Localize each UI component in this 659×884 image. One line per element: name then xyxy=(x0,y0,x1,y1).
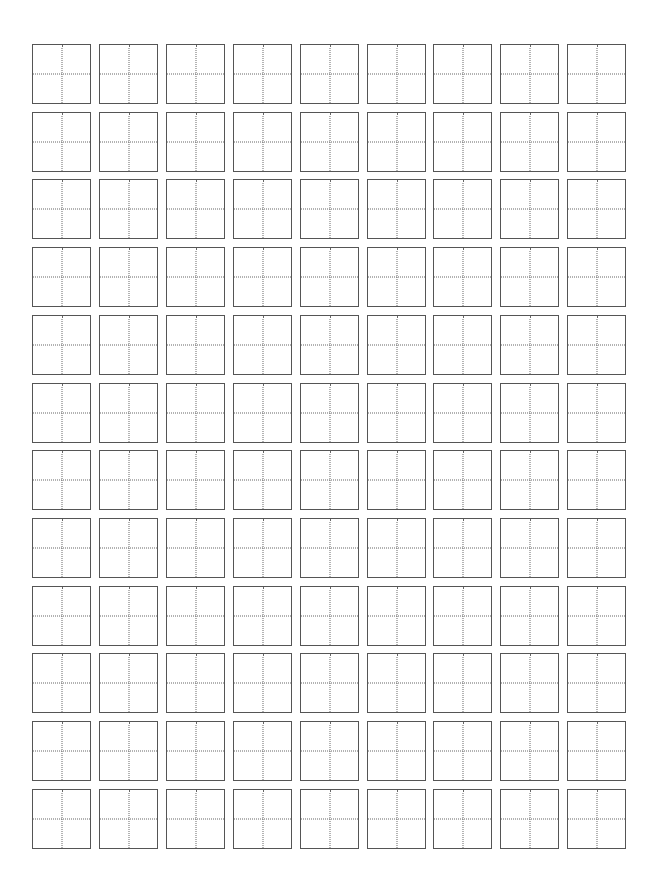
grid-cell xyxy=(433,586,492,646)
horizontal-guide-line xyxy=(234,819,291,820)
grid-cell xyxy=(166,247,225,307)
grid-cell xyxy=(367,179,426,239)
horizontal-guide-line xyxy=(568,277,625,278)
horizontal-guide-line xyxy=(501,548,558,549)
grid-cell xyxy=(433,383,492,443)
grid-cell xyxy=(433,721,492,781)
horizontal-guide-line xyxy=(568,209,625,210)
horizontal-guide-line xyxy=(301,345,358,346)
grid-cell xyxy=(567,44,626,104)
horizontal-guide-line xyxy=(434,751,491,752)
grid-cell xyxy=(367,450,426,510)
grid-cell xyxy=(433,112,492,172)
grid-cell xyxy=(500,653,559,713)
horizontal-guide-line xyxy=(100,209,157,210)
grid-cell xyxy=(32,653,91,713)
horizontal-guide-line xyxy=(33,480,90,481)
grid-cell xyxy=(300,247,359,307)
horizontal-guide-line xyxy=(301,74,358,75)
grid-cell xyxy=(500,721,559,781)
grid-cell xyxy=(32,315,91,375)
grid-cell xyxy=(500,112,559,172)
grid-cell xyxy=(233,179,292,239)
horizontal-guide-line xyxy=(434,277,491,278)
grid-cell xyxy=(433,247,492,307)
grid-cell xyxy=(567,315,626,375)
horizontal-guide-line xyxy=(301,683,358,684)
horizontal-guide-line xyxy=(434,413,491,414)
grid-cell xyxy=(32,789,91,849)
grid-cell xyxy=(99,789,158,849)
horizontal-guide-line xyxy=(368,548,425,549)
grid-cell xyxy=(166,112,225,172)
grid-cell xyxy=(99,44,158,104)
horizontal-guide-line xyxy=(234,683,291,684)
grid-cell xyxy=(300,789,359,849)
grid-cell xyxy=(367,315,426,375)
horizontal-guide-line xyxy=(501,413,558,414)
grid-cell xyxy=(500,247,559,307)
grid-cell xyxy=(166,518,225,578)
horizontal-guide-line xyxy=(568,819,625,820)
grid-cell xyxy=(233,789,292,849)
horizontal-guide-line xyxy=(234,413,291,414)
grid-cell xyxy=(500,450,559,510)
horizontal-guide-line xyxy=(568,345,625,346)
grid-cell xyxy=(233,247,292,307)
grid-cell xyxy=(567,247,626,307)
horizontal-guide-line xyxy=(301,480,358,481)
grid-cell xyxy=(32,44,91,104)
grid-cell xyxy=(567,721,626,781)
horizontal-guide-line xyxy=(434,819,491,820)
horizontal-guide-line xyxy=(100,819,157,820)
horizontal-guide-line xyxy=(568,480,625,481)
horizontal-guide-line xyxy=(501,209,558,210)
horizontal-guide-line xyxy=(234,480,291,481)
grid-cell xyxy=(500,383,559,443)
horizontal-guide-line xyxy=(368,751,425,752)
horizontal-guide-line xyxy=(368,413,425,414)
horizontal-guide-line xyxy=(434,683,491,684)
grid-cell xyxy=(367,44,426,104)
horizontal-guide-line xyxy=(434,548,491,549)
horizontal-guide-line xyxy=(234,751,291,752)
horizontal-guide-line xyxy=(434,74,491,75)
horizontal-guide-line xyxy=(434,345,491,346)
horizontal-guide-line xyxy=(33,819,90,820)
horizontal-guide-line xyxy=(434,142,491,143)
horizontal-guide-line xyxy=(434,616,491,617)
horizontal-guide-line xyxy=(301,413,358,414)
horizontal-guide-line xyxy=(33,345,90,346)
horizontal-guide-line xyxy=(33,209,90,210)
horizontal-guide-line xyxy=(167,209,224,210)
horizontal-guide-line xyxy=(167,74,224,75)
grid-cell xyxy=(367,518,426,578)
horizontal-guide-line xyxy=(100,751,157,752)
horizontal-guide-line xyxy=(501,345,558,346)
grid-cell xyxy=(166,721,225,781)
horizontal-guide-line xyxy=(501,751,558,752)
grid-cell xyxy=(233,721,292,781)
grid-cell xyxy=(500,586,559,646)
grid-cell xyxy=(433,789,492,849)
horizontal-guide-line xyxy=(301,277,358,278)
grid-cell xyxy=(32,518,91,578)
grid-cell xyxy=(166,44,225,104)
grid-cell xyxy=(99,247,158,307)
grid-cell xyxy=(367,789,426,849)
horizontal-guide-line xyxy=(167,751,224,752)
grid-cell xyxy=(367,586,426,646)
grid-cell xyxy=(567,112,626,172)
horizontal-guide-line xyxy=(301,751,358,752)
grid-cell xyxy=(500,179,559,239)
horizontal-guide-line xyxy=(33,142,90,143)
horizontal-guide-line xyxy=(100,277,157,278)
horizontal-guide-line xyxy=(167,277,224,278)
horizontal-guide-line xyxy=(234,277,291,278)
grid-cell xyxy=(500,44,559,104)
horizontal-guide-line xyxy=(234,548,291,549)
grid-cell xyxy=(433,653,492,713)
horizontal-guide-line xyxy=(234,616,291,617)
horizontal-guide-line xyxy=(501,616,558,617)
horizontal-guide-line xyxy=(100,74,157,75)
